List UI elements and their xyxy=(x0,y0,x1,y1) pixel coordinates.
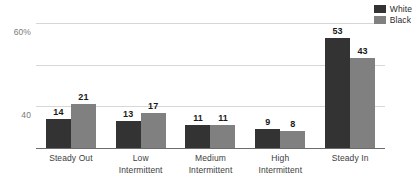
x-axis-category-line: Intermittent xyxy=(176,164,246,176)
bar-column: 11 xyxy=(210,14,235,148)
bar-value-label: 21 xyxy=(78,93,88,102)
x-axis-category-line: Intermittent xyxy=(245,164,315,176)
bar-white[interactable] xyxy=(255,129,280,148)
bar-column: 11 xyxy=(185,14,210,148)
bar-column: 8 xyxy=(280,14,305,148)
x-axis-category-line: Steady Out xyxy=(36,152,106,164)
bar-black[interactable] xyxy=(141,113,166,148)
bar-value-label: 53 xyxy=(332,27,342,36)
bar-value-label: 11 xyxy=(193,114,203,123)
bar-value-label: 11 xyxy=(218,114,228,123)
legend-swatch-icon xyxy=(374,16,386,24)
bar-black[interactable] xyxy=(280,131,305,148)
bar-column: 43 xyxy=(350,14,375,148)
bar-column: 21 xyxy=(71,14,96,148)
bar-column: 17 xyxy=(141,14,166,148)
legend-swatch-icon xyxy=(374,5,386,13)
bar-white[interactable] xyxy=(116,121,141,148)
legend-label: White xyxy=(390,5,412,14)
bar-black[interactable] xyxy=(350,58,375,148)
bar-group: 1317 xyxy=(106,14,176,148)
legend-item[interactable]: Black xyxy=(374,16,412,25)
bar-column: 13 xyxy=(116,14,141,148)
y-axis-tick-label: 40 xyxy=(21,110,31,120)
bar-value-label: 14 xyxy=(53,108,63,117)
bar-value-label: 43 xyxy=(357,47,367,56)
bar-value-label: 8 xyxy=(290,120,295,129)
bar-value-label: 9 xyxy=(265,118,270,127)
bar-black[interactable] xyxy=(71,104,96,148)
y-axis-tick-label: 60% xyxy=(14,27,31,37)
plot-area: 0204060% 142113171111985343 xyxy=(36,14,385,154)
bar-groups: 142113171111985343 xyxy=(36,14,385,148)
x-axis-category-line: Steady In xyxy=(315,152,385,164)
bar-column: 14 xyxy=(46,14,71,148)
legend-label: Black xyxy=(390,16,411,25)
bar-group: 1111 xyxy=(176,14,246,148)
bar-group: 1421 xyxy=(36,14,106,148)
x-axis-category-label: Steady Out xyxy=(36,152,106,176)
bar-group: 5343 xyxy=(315,14,385,148)
chart-legend: WhiteBlack xyxy=(374,5,412,24)
x-axis-category-line: Medium xyxy=(176,152,246,164)
bar-white[interactable] xyxy=(46,119,71,148)
x-axis-category-label: Steady In xyxy=(315,152,385,176)
x-axis-line: 0 xyxy=(36,148,385,149)
bar-black[interactable] xyxy=(210,125,235,148)
bar-chart: 0204060% 142113171111985343 Steady OutLo… xyxy=(0,0,418,187)
bar-value-label: 13 xyxy=(123,110,133,119)
x-axis-category-label: HighIntermittent xyxy=(245,152,315,176)
x-axis-category-label: LowIntermittent xyxy=(106,152,176,176)
bar-column: 53 xyxy=(325,14,350,148)
x-axis-labels: Steady OutLowIntermittentMediumIntermitt… xyxy=(36,152,385,176)
bar-value-label: 17 xyxy=(148,102,158,111)
bar-white[interactable] xyxy=(325,38,350,148)
x-axis-category-line: High xyxy=(245,152,315,164)
legend-item[interactable]: White xyxy=(374,5,412,14)
bar-group: 98 xyxy=(245,14,315,148)
x-axis-category-line: Low xyxy=(106,152,176,164)
x-axis-category-line: Intermittent xyxy=(106,164,176,176)
bar-column: 9 xyxy=(255,14,280,148)
bar-white[interactable] xyxy=(185,125,210,148)
x-axis-category-label: MediumIntermittent xyxy=(176,152,246,176)
